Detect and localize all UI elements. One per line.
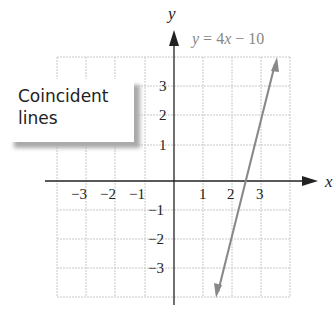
line-y-4x-10 [214,57,279,298]
y-axis-label: y [166,4,176,23]
callout-line-2: lines [18,107,134,129]
equation-label: y = 4x − 10 [190,30,264,48]
svg-text:−1: −1 [129,186,145,202]
svg-text:3: 3 [256,186,264,202]
svg-text:1: 1 [199,186,207,202]
svg-text:−2: −2 [100,186,116,202]
svg-text:−3: −3 [71,186,87,202]
y-tick-labels: 3 2 1 −1 −2 −3 [148,78,167,276]
svg-text:−2: −2 [148,231,164,247]
y-axis [169,30,179,305]
callout-line-1: Coincident [18,85,134,107]
svg-text:2: 2 [227,186,235,202]
svg-text:2: 2 [159,107,167,123]
svg-text:−3: −3 [148,260,164,276]
svg-text:3: 3 [159,78,167,94]
svg-text:−1: −1 [148,202,164,218]
x-axis-label: x [324,172,333,191]
x-tick-labels: −3 −2 −1 1 2 3 [71,186,264,202]
svg-text:1: 1 [159,137,167,153]
callout-box: Coincident lines [8,79,134,142]
coordinate-plane: y x −3 −2 −1 1 2 3 3 2 1 −1 −2 −3 y = 4x… [0,0,333,312]
